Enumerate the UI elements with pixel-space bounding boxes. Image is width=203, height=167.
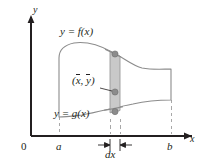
- y-axis-label: y: [33, 5, 37, 15]
- strip-bottom-dot: [112, 109, 118, 115]
- centroid-x-bar: x: [76, 75, 81, 86]
- left-bound-label: a: [56, 141, 62, 152]
- figure-centroid-diagram: y = f(x) y = g(x) (x, y) y x 0 a b dx: [0, 0, 203, 167]
- right-bound-label: b: [167, 141, 173, 152]
- centroid-y-bar: y: [86, 75, 91, 86]
- strip-top-dot: [112, 51, 118, 57]
- lower-curve-label: y = g(x): [54, 108, 90, 119]
- origin-label: 0: [21, 141, 27, 152]
- centroid-paren-close: ): [91, 74, 95, 86]
- centroid-label: (x, y): [72, 75, 95, 86]
- upper-curve-label: y = f(x): [60, 26, 93, 37]
- dx-left-arrowhead: [105, 143, 111, 148]
- representative-strip: [110, 52, 120, 113]
- strip-width-label: dx: [105, 149, 115, 160]
- centroid-dot: [112, 89, 118, 95]
- y-axis-arrowhead: [28, 15, 35, 23]
- dx-right-arrowhead: [120, 143, 126, 148]
- x-axis-label: x: [190, 134, 194, 144]
